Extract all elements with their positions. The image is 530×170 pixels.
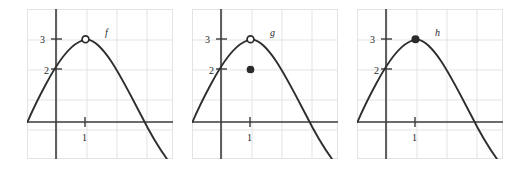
panel-frame	[28, 10, 173, 159]
x-tick-label-1: 1	[412, 132, 417, 143]
vertex-filled-dot-h	[412, 36, 419, 43]
extra-filled-dot-g	[247, 66, 253, 72]
x-tick-label-1: 1	[82, 132, 87, 143]
panel-g-plot: 3 2 1 g	[192, 9, 338, 159]
panel-h-plot: 3 2 1 h	[357, 9, 503, 159]
vertex-open-dot-f	[82, 36, 89, 43]
panel-frame	[358, 10, 503, 159]
y-tick-label-2: 2	[374, 65, 379, 76]
y-tick-label-2: 2	[44, 65, 49, 76]
parabola-curve-f	[28, 39, 168, 159]
y-tick-label-3: 3	[205, 34, 210, 45]
panel-frame	[193, 10, 338, 159]
parabola-curve-h	[358, 39, 498, 159]
y-tick-label-3: 3	[370, 34, 375, 45]
y-tick-label-3: 3	[40, 34, 45, 45]
vertex-open-dot-g	[247, 36, 254, 43]
function-label-f: f	[105, 27, 109, 38]
function-label-h: h	[435, 27, 440, 38]
y-tick-label-2: 2	[209, 65, 214, 76]
graph-panel-f: 3 2 1 f	[27, 9, 173, 159]
parabola-curve-g	[193, 39, 333, 159]
x-tick-label-1: 1	[247, 132, 252, 143]
panel-f-plot: 3 2 1 f	[27, 9, 173, 159]
function-label-g: g	[270, 27, 275, 38]
three-panel-parabola-figure: 3 2 1 f 3 2 1	[0, 0, 530, 170]
graph-panel-g: 3 2 1 g	[192, 9, 338, 159]
graph-panel-h: 3 2 1 h	[357, 9, 503, 159]
